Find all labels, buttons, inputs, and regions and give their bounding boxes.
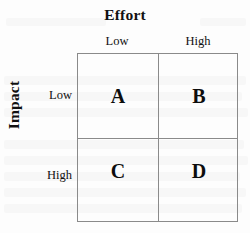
effort-impact-matrix-figure: Effort Impact Low High Low High A B C D [0, 0, 250, 233]
y-axis-title: Impact [5, 50, 23, 160]
quadrant-label-a: A [111, 86, 125, 106]
x-axis-tick-high: High [158, 34, 238, 49]
quadrant-cell-a: A [78, 54, 158, 138]
quadrant-label-b: B [192, 86, 205, 106]
quadrant-cell-d: D [159, 139, 239, 223]
y-axis-tick-low: Low [18, 88, 72, 103]
quadrant-label-d: D [192, 161, 206, 181]
x-axis-title: Effort [0, 6, 250, 24]
matrix-grid: A B C D [77, 53, 238, 222]
quadrant-label-c: C [111, 161, 125, 181]
quadrant-cell-b: B [159, 54, 239, 138]
y-axis-tick-high: High [18, 168, 72, 183]
quadrant-cell-c: C [78, 139, 158, 223]
x-axis-tick-low: Low [77, 34, 157, 49]
